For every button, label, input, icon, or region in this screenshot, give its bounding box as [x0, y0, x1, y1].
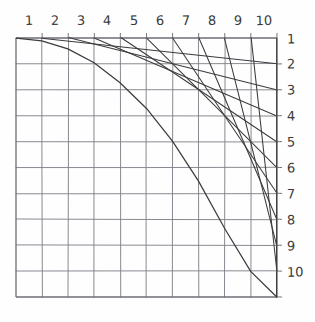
- top-axis-label-6: 6: [155, 14, 164, 27]
- top-axis-label-4: 4: [103, 14, 112, 27]
- right-axis-label-6: 6: [287, 161, 296, 174]
- chord-7: [199, 38, 277, 219]
- right-axis-label-4: 4: [287, 110, 296, 123]
- right-axis-label-3: 3: [287, 84, 296, 97]
- figure-canvas: 12345678910 12345678910: [0, 0, 315, 322]
- top-axis-label-10: 10: [255, 14, 272, 27]
- top-axis-label-9: 9: [234, 14, 243, 27]
- top-axis-label-2: 2: [51, 14, 60, 27]
- top-axis-label-5: 5: [129, 14, 138, 27]
- grid-line-horizontal: [16, 219, 277, 220]
- top-axis-label-8: 8: [207, 14, 216, 27]
- right-axis-label-7: 7: [287, 187, 296, 200]
- grid-lines-group: [16, 38, 277, 297]
- chord-9: [251, 38, 277, 271]
- right-axis-label-5: 5: [287, 136, 296, 149]
- grid-line-horizontal: [16, 245, 277, 246]
- right-axis-label-10: 10: [287, 265, 304, 278]
- top-axis-label-3: 3: [77, 14, 86, 27]
- right-axis-label-8: 8: [287, 213, 296, 226]
- right-axis-label-9: 9: [287, 239, 296, 252]
- tick-marks-group: [42, 34, 281, 298]
- grid-and-curves-svg: [0, 0, 315, 322]
- right-axis-label-2: 2: [287, 58, 296, 71]
- right-axis-label-1: 1: [287, 32, 296, 45]
- chord-5: [147, 38, 277, 167]
- top-axis-label-1: 1: [25, 14, 34, 27]
- top-axis-label-7: 7: [181, 14, 190, 27]
